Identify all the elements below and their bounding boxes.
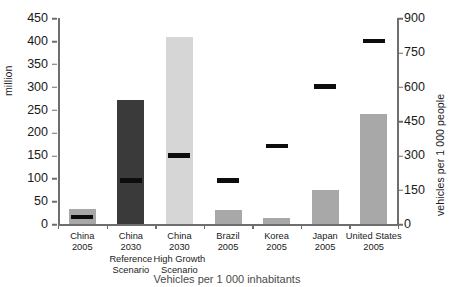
y-axis-left-tick-mark xyxy=(52,64,57,65)
y-axis-left-tick-label: 50 xyxy=(0,195,48,208)
bar xyxy=(263,218,290,224)
value-marker xyxy=(71,215,93,220)
x-axis-category-label-line: High Growth xyxy=(147,254,212,265)
x-axis-tick-mark xyxy=(252,224,253,229)
chart-container: million vehicles per 1 000 people 050100… xyxy=(0,0,454,287)
value-marker xyxy=(168,153,190,158)
y-axis-left-tick-mark xyxy=(52,224,57,225)
y-axis-right-tick-mark xyxy=(398,52,403,53)
y-axis-left-tick-label: 100 xyxy=(0,172,48,185)
y-axis-left-tick-mark xyxy=(52,201,57,202)
value-marker xyxy=(314,84,336,89)
bar xyxy=(360,114,387,224)
y-axis-left-tick-label: 150 xyxy=(0,149,48,162)
y-axis-left-tick-label: 450 xyxy=(0,12,48,25)
value-marker xyxy=(363,39,385,44)
y-axis-right-tick-label: 900 xyxy=(404,12,450,25)
y-axis-right-tick-mark xyxy=(398,190,403,191)
y-axis-right-tick-label: 150 xyxy=(404,183,450,196)
y-axis-left-tick-label: 200 xyxy=(0,126,48,139)
y-axis-left-tick-mark xyxy=(52,87,57,88)
x-axis-tick-mark xyxy=(155,224,156,229)
y-axis-left-tick-mark xyxy=(52,41,57,42)
y-axis-left-tick-label: 250 xyxy=(0,103,48,116)
bar xyxy=(312,190,339,224)
x-axis-tick-mark xyxy=(301,224,302,229)
chart-caption: Vehicles per 1 000 inhabitants xyxy=(0,273,454,287)
y-axis-left-tick-label: 400 xyxy=(0,35,48,48)
x-axis-tick-mark xyxy=(58,224,59,229)
x-axis-tick-mark xyxy=(349,224,350,229)
plot-area xyxy=(58,18,398,224)
x-axis-tick-mark xyxy=(204,224,205,229)
y-axis-right-tick-mark xyxy=(398,18,403,19)
x-axis-tick-mark xyxy=(107,224,108,229)
y-axis-right-tick-mark xyxy=(398,155,403,156)
value-marker xyxy=(266,144,288,149)
y-axis-left-tick-mark xyxy=(52,155,57,156)
bar xyxy=(166,37,193,224)
y-axis-right-tick-label: 0 xyxy=(404,218,450,231)
y-axis-left-tick-label: 350 xyxy=(0,58,48,71)
y-axis-left-tick-mark xyxy=(52,18,57,19)
y-axis-right-tick-mark xyxy=(398,121,403,122)
x-axis-line xyxy=(58,224,399,226)
y-axis-right-tick-label: 300 xyxy=(404,149,450,162)
y-axis-right-tick-label: 750 xyxy=(404,46,450,59)
value-marker xyxy=(217,178,239,183)
y-axis-right-tick-label: 600 xyxy=(404,80,450,93)
bar xyxy=(117,100,144,224)
value-marker xyxy=(120,178,142,183)
x-axis-category-label-line: United States xyxy=(341,231,406,242)
y-axis-right-tick-mark xyxy=(398,87,403,88)
y-axis-right-tick-label: 450 xyxy=(404,115,450,128)
y-axis-left-tick-mark xyxy=(52,178,57,179)
bar xyxy=(215,210,242,224)
x-axis-category-label-line: 2005 xyxy=(341,242,406,253)
y-axis-left-tick-mark xyxy=(52,110,57,111)
x-axis-tick-mark xyxy=(398,224,399,229)
y-axis-left-tick-label: 300 xyxy=(0,80,48,93)
x-axis-category-label: United States2005 xyxy=(341,231,406,254)
y-axis-left-tick-mark xyxy=(52,132,57,133)
y-axis-left-tick-label: 0 xyxy=(0,218,48,231)
